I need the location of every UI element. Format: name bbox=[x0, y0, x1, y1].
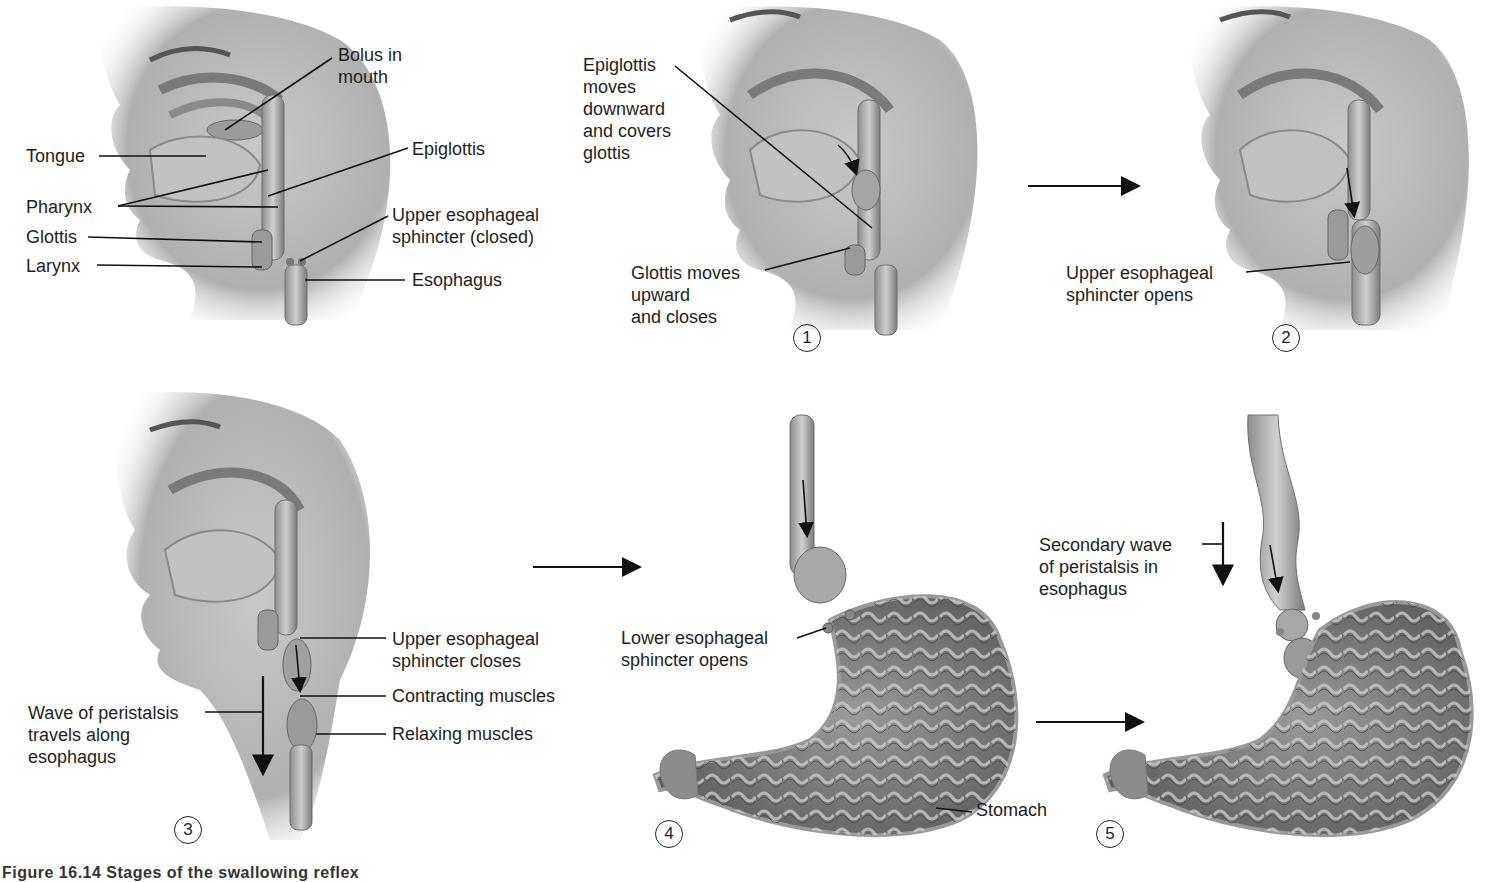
label-bolus-in-mouth: Bolus in mouth bbox=[338, 44, 402, 88]
label-glottis-moves-upward: Glottis moves upward and closes bbox=[631, 262, 740, 328]
label-esophagus: Esophagus bbox=[412, 269, 502, 291]
label-glottis: Glottis bbox=[26, 226, 77, 248]
label-upper-esophageal-sphincter-opens: Upper esophageal sphincter opens bbox=[1066, 262, 1213, 306]
label-secondary-wave-of-peristalsis: Secondary wave of peristalsis in esophag… bbox=[1039, 534, 1172, 600]
panel-overview: Bolus in mouth Tongue Epiglottis Pharynx… bbox=[0, 0, 560, 330]
label-lower-esophageal-sphincter-opens: Lower esophageal sphincter opens bbox=[621, 627, 768, 671]
label-larynx: Larynx bbox=[26, 255, 80, 277]
label-epiglottis: Epiglottis bbox=[412, 138, 485, 160]
step-number-4: 4 bbox=[655, 820, 683, 848]
label-relaxing-muscles: Relaxing muscles bbox=[392, 723, 533, 745]
step-number-2: 2 bbox=[1272, 324, 1300, 352]
panel-step-1: Epiglottis moves downward and covers glo… bbox=[560, 0, 1000, 360]
figure-caption: Figure 16.14 Stages of the swallowing re… bbox=[2, 864, 359, 882]
label-epiglottis-moves-downward: Epiglottis moves downward and covers glo… bbox=[583, 54, 671, 164]
panel-step-5: Secondary wave of peristalsis in esophag… bbox=[1030, 410, 1486, 850]
label-upper-esophageal-sphincter-closed: Upper esophageal sphincter (closed) bbox=[392, 204, 539, 248]
stomach-illustration bbox=[1030, 410, 1486, 850]
flow-arrow-right-icon bbox=[1025, 176, 1145, 196]
label-tongue: Tongue bbox=[26, 145, 85, 167]
step-number-3: 3 bbox=[174, 816, 202, 844]
panel-step-3: Upper esophageal sphincter closes Contra… bbox=[0, 380, 600, 850]
panel-step-2: Upper esophageal sphincter opens 2 bbox=[1150, 0, 1486, 360]
label-contracting-muscles: Contracting muscles bbox=[392, 685, 555, 707]
label-wave-of-peristalsis: Wave of peristalsis travels along esopha… bbox=[28, 702, 178, 768]
head-neck-illustration bbox=[0, 380, 600, 850]
step-number-5: 5 bbox=[1096, 820, 1124, 848]
head-sagittal-illustration bbox=[1150, 0, 1486, 360]
label-upper-esophageal-sphincter-closes: Upper esophageal sphincter closes bbox=[392, 628, 539, 672]
panel-step-4: Lower esophageal sphincter opens Stomach… bbox=[600, 410, 1030, 850]
label-pharynx: Pharynx bbox=[26, 196, 92, 218]
step-number-1: 1 bbox=[793, 324, 821, 352]
